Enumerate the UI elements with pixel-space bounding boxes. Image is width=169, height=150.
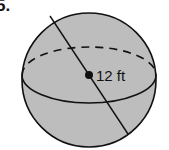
sphere-outline — [22, 13, 156, 147]
diameter-label: 12 ft — [96, 67, 126, 84]
sphere-diagram: 12 ft — [0, 0, 169, 150]
center-point — [85, 71, 93, 79]
